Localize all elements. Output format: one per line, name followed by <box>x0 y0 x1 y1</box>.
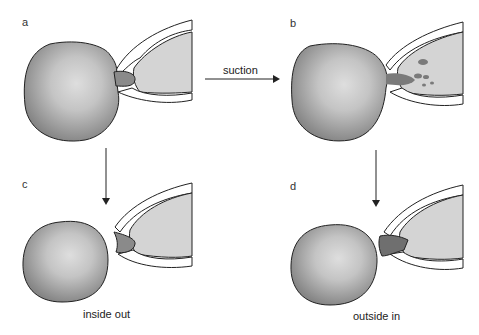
panel-label-b: b <box>290 17 296 29</box>
panel-label-d: d <box>290 180 296 192</box>
patch-clamp-diagram <box>0 0 479 335</box>
caption-inside-out: inside out <box>83 308 130 320</box>
caption-outside-in: outside in <box>353 310 400 322</box>
panel-label-c: c <box>22 178 28 190</box>
panel-label-a: a <box>22 16 28 28</box>
suction-label: suction <box>223 64 258 76</box>
panel-b <box>292 22 463 141</box>
panel-a <box>24 20 192 141</box>
